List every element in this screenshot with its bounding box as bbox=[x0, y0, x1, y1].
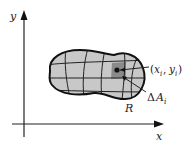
region-r bbox=[45, 48, 150, 100]
region-label: R bbox=[124, 102, 133, 115]
point-label: ( x i , y i ) bbox=[150, 63, 182, 78]
arrow-right-icon bbox=[154, 121, 164, 128]
svg-text:i: i bbox=[160, 70, 162, 78]
svg-text:A: A bbox=[155, 91, 164, 104]
area-label: Δ A i bbox=[147, 91, 167, 106]
y-axis-label: y bbox=[9, 10, 17, 23]
arrow-up-icon bbox=[21, 10, 28, 20]
svg-text:i: i bbox=[175, 70, 177, 78]
y-axis bbox=[21, 10, 28, 137]
x-axis bbox=[12, 121, 164, 128]
svg-text:): ) bbox=[178, 63, 182, 75]
svg-text:,: , bbox=[163, 63, 166, 75]
sample-point bbox=[114, 67, 119, 72]
svg-text:Δ: Δ bbox=[147, 91, 155, 104]
x-axis-label: x bbox=[156, 130, 163, 143]
svg-text:i: i bbox=[164, 97, 167, 106]
region-partition-diagram: y x R ( x i , y i ) Δ A i bbox=[0, 0, 196, 146]
